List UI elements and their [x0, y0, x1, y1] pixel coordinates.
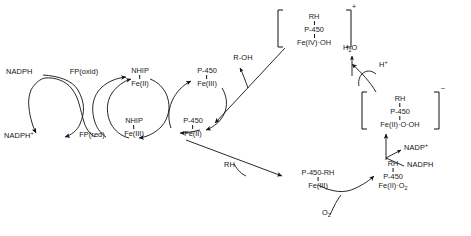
species-p450-ferric: P-450 Fe(III): [197, 66, 217, 88]
bracket-peroxo-left: [362, 92, 367, 129]
label-fp-oxidized: FP(oxid): [70, 68, 99, 76]
label-nadp-plus: NADP+: [404, 143, 428, 152]
diagram-canvas: NADPH NADPH+ FP(oxid) FP(red) NHIP Fe(II…: [0, 0, 471, 236]
species-peroxo-intermediate: RH P-450 Fe(II)·O·OH: [380, 94, 419, 130]
label-nadph-reductant: NADPH: [407, 161, 433, 169]
species-nhip-ferrous: NHIP Fe(II): [131, 66, 149, 88]
arrow-rh-entry: [234, 164, 246, 176]
oxy-complex-iron-line: Fe(II)·O2: [379, 181, 408, 194]
arrow-peroxo-to-oxenoid: [352, 64, 376, 92]
label-fp-reduced: FP(red): [79, 131, 105, 139]
bracket-peroxo-right: [434, 92, 439, 129]
arrow-ferrous-to-substrate-complex: [186, 140, 282, 176]
label-nadph-in: NADPH: [6, 68, 32, 76]
arrow-nadp-plus-out: [386, 150, 401, 158]
species-nhip-ferric: NHIP Fe(III): [124, 116, 144, 138]
arrow-fpoxid-to-nadphplus: [29, 78, 95, 137]
arrow-o2-entry: [330, 195, 341, 215]
label-product-roh: R-OH: [233, 54, 252, 62]
charge-peroxo-minus: –: [441, 84, 445, 91]
species-oxenoid-intermediate: RH P-450 Fe(IV)·OH: [297, 12, 331, 48]
arrow-p450-feiii-reduction: [206, 88, 226, 130]
label-proton: H+: [379, 60, 388, 69]
species-oxy-complex: RH P-450 Fe(II)·O2: [379, 159, 408, 194]
species-p450-ferrous: P-450 Fe(II): [183, 116, 203, 138]
charge-oxenoid-plus: +: [352, 3, 356, 10]
bracket-oxenoid-left: [278, 10, 283, 47]
arrow-product-roh: [240, 68, 248, 88]
species-p450-rh-complex: P-450-RH Fe(III): [302, 168, 335, 190]
arrow-nadph-to-fpred: [43, 75, 84, 137]
label-nadph-plus-out: NADPH+: [4, 131, 34, 140]
label-dioxygen: O2: [322, 209, 331, 219]
label-substrate-rh: RH: [224, 161, 235, 169]
arrow-fpred-to-nhip-feii: [93, 77, 126, 137]
bracket-oxenoid-right: [346, 10, 351, 47]
label-water: H2O: [343, 44, 357, 54]
